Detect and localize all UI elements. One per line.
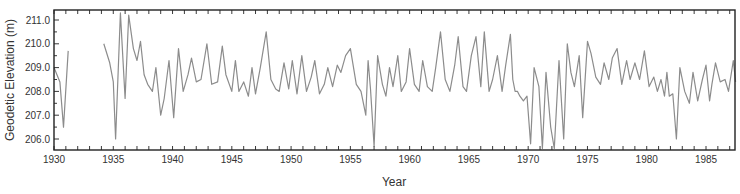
x-axis-title: Year (382, 175, 406, 189)
x-tick-label: 1975 (576, 154, 599, 165)
y-tick-label: 207.0 (25, 110, 50, 121)
x-tick-label: 1960 (399, 154, 422, 165)
x-tick-label: 1985 (695, 154, 718, 165)
elevation-line-1 (54, 51, 68, 127)
x-tick-label: 1980 (636, 154, 659, 165)
data-series (54, 13, 736, 149)
x-axis: 1930193519401945195019551960196519701975… (43, 10, 730, 165)
y-tick-label: 209.0 (25, 62, 50, 73)
x-tick-label: 1965 (458, 154, 481, 165)
y-tick-label: 206.0 (25, 134, 50, 145)
y-tick-label: 211.0 (26, 15, 51, 26)
x-tick-label: 1930 (43, 154, 66, 165)
elevation-line-chart: 1930193519401945195019551960196519701975… (0, 0, 740, 194)
x-tick-label: 1970 (517, 154, 540, 165)
x-tick-label: 1955 (339, 154, 362, 165)
y-axis-title: Geodetic Elevation (m) (3, 19, 17, 141)
x-tick-label: 1950 (280, 154, 303, 165)
elevation-line-2 (104, 13, 736, 149)
y-tick-label: 210.0 (25, 38, 50, 49)
x-tick-label: 1935 (102, 154, 125, 165)
y-tick-label: 208.0 (25, 86, 50, 97)
x-tick-label: 1940 (161, 154, 184, 165)
x-tick-label: 1945 (221, 154, 244, 165)
